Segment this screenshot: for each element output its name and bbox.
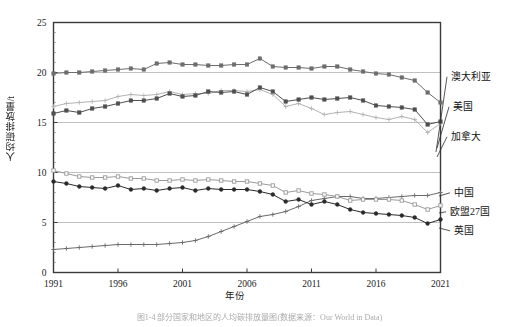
marker-circle — [426, 222, 430, 226]
marker-square — [232, 63, 235, 66]
marker-square-open — [323, 193, 326, 196]
marker-circle — [116, 184, 120, 188]
marker-circle — [387, 213, 391, 217]
marker-square — [168, 92, 171, 95]
marker-circle — [103, 187, 107, 191]
legend-entry-4: 欧盟27国 — [439, 206, 490, 217]
marker-square — [129, 67, 132, 70]
marker-circle — [335, 203, 339, 207]
marker-square-open — [91, 176, 94, 179]
legend-label-0: 澳大利亚 — [451, 70, 491, 82]
legend-entry-3: 中国 — [439, 186, 474, 198]
marker-circle — [142, 187, 146, 191]
marker-square-open — [52, 169, 55, 172]
chart-svg: 05101520251991199620012006201120162021澳大… — [0, 0, 519, 327]
marker-square — [310, 67, 313, 70]
marker-square-open — [232, 180, 235, 183]
marker-square — [220, 91, 223, 94]
marker-circle — [90, 186, 94, 190]
marker-square — [155, 62, 158, 65]
marker-circle — [168, 187, 172, 191]
marker-circle — [194, 189, 198, 193]
marker-circle — [77, 185, 81, 189]
marker-square — [181, 63, 184, 66]
marker-square-open — [349, 199, 352, 202]
y-tick-label-15: 15 — [37, 118, 47, 128]
marker-square — [91, 70, 94, 73]
marker-square — [284, 66, 287, 69]
marker-circle — [348, 208, 352, 212]
marker-square-open — [168, 179, 171, 182]
marker-square — [232, 90, 235, 93]
marker-square — [65, 71, 68, 74]
marker-square — [439, 101, 442, 104]
marker-square — [116, 102, 119, 105]
marker-square — [349, 96, 352, 99]
marker-square-open — [387, 198, 390, 201]
chart-figure: 05101520251991199620012006201120162021澳大… — [0, 0, 519, 327]
y-tick-label-5: 5 — [42, 218, 47, 228]
marker-square-open — [142, 177, 145, 180]
marker-square — [258, 57, 261, 60]
marker-square-open — [361, 198, 364, 201]
marker-square — [78, 71, 81, 74]
marker-square-open — [413, 203, 416, 206]
marker-square — [426, 91, 429, 94]
marker-square — [271, 65, 274, 68]
marker-square — [103, 69, 106, 72]
marker-square — [194, 94, 197, 97]
y-tick-label-0: 0 — [42, 268, 47, 278]
y-axis-label: 人均碳排放量/t — [6, 96, 20, 161]
x-axis-label: 年份 — [0, 288, 470, 302]
marker-square — [336, 65, 339, 68]
marker-circle — [310, 203, 314, 207]
marker-circle — [65, 182, 69, 186]
marker-circle — [361, 211, 365, 215]
marker-square-open — [65, 172, 68, 175]
marker-square — [168, 61, 171, 64]
marker-square — [245, 63, 248, 66]
series-英国 — [52, 180, 443, 226]
marker-square — [65, 109, 68, 112]
marker-square — [387, 73, 390, 76]
marker-square — [91, 107, 94, 110]
marker-square — [271, 90, 274, 93]
marker-square — [78, 111, 81, 114]
marker-square-open — [245, 180, 248, 183]
marker-square — [245, 93, 248, 96]
marker-square — [400, 106, 403, 109]
marker-square — [297, 98, 300, 101]
legend-label-5: 英国 — [454, 224, 474, 236]
marker-square-open — [116, 175, 119, 178]
marker-circle — [232, 188, 236, 192]
marker-circle — [155, 189, 159, 193]
legend-label-3: 中国 — [454, 186, 474, 198]
marker-square — [374, 104, 377, 107]
y-tick-label-25: 25 — [37, 18, 47, 28]
marker-circle — [439, 218, 443, 222]
marker-square-open — [194, 179, 197, 182]
x-tick-label-2011: 2011 — [302, 279, 321, 289]
legend-entry-5: 英国 — [439, 224, 474, 236]
marker-square-open — [439, 204, 442, 207]
marker-square — [194, 63, 197, 66]
x-tick-label-2006: 2006 — [238, 279, 257, 289]
legend-label-1: 美国 — [453, 100, 473, 112]
legend-leader-line-2 — [437, 137, 447, 157]
marker-square-open — [129, 177, 132, 180]
marker-square — [323, 65, 326, 68]
legend-label-4: 欧盟27国 — [450, 206, 490, 217]
marker-square-open — [258, 182, 261, 185]
marker-square — [52, 112, 55, 115]
marker-square — [374, 72, 377, 75]
marker-square-open — [207, 178, 210, 181]
x-tick-label-2001: 2001 — [173, 279, 192, 289]
marker-square-open — [310, 192, 313, 195]
figure-root: 05101520251991199620012006201120162021澳大… — [0, 0, 519, 327]
marker-square — [181, 95, 184, 98]
marker-square — [220, 64, 223, 67]
marker-square-open — [426, 208, 429, 211]
marker-square — [207, 90, 210, 93]
marker-square — [310, 96, 313, 99]
marker-circle — [219, 188, 223, 192]
